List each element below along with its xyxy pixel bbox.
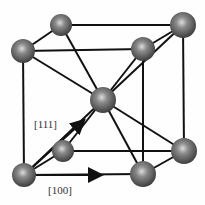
atom-front-bottom-right	[130, 161, 156, 187]
diagram-canvas: [111] [100]	[0, 0, 205, 205]
atom-back-top-left	[50, 14, 72, 36]
atom-front-top-left	[11, 39, 35, 63]
atom-body-center	[90, 87, 116, 113]
label-111: [111]	[34, 118, 57, 130]
bcc-unit-cell-diagram: [111] [100]	[0, 0, 205, 205]
atom-front-bottom-left	[12, 163, 36, 187]
label-100: [100]	[48, 184, 72, 196]
atom-back-bottom-left	[52, 140, 74, 162]
atom-front-top-right	[131, 37, 155, 61]
atom-back-top-right	[170, 12, 196, 38]
atom-back-bottom-right	[171, 138, 197, 164]
